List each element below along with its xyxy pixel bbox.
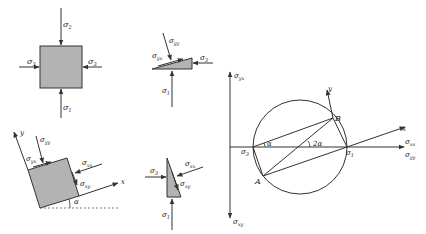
mohr-circle-diagram: σyx σxy σxx σyy σ3 σ1 A B x y α 2α (230, 72, 416, 228)
two-alpha-arc (308, 141, 310, 147)
sigma-xx-label: σxx (185, 160, 196, 169)
panel-c-rotated-element: y x σyy σyx σxx σxy α (14, 129, 125, 208)
sigma1-label: σ1 (162, 211, 170, 220)
sigma-yx-label: σyx (152, 52, 163, 62)
sigma3-label: σ3 (150, 167, 158, 176)
sigma3-point-label: σ3 (241, 148, 249, 157)
sigma1-label: σ1 (162, 87, 170, 96)
sigma-xx-label: σxx (82, 159, 93, 168)
alpha-angle-label: α (267, 140, 272, 148)
alpha-angle-arc (69, 199, 70, 208)
sigma2-label: σ2 (63, 20, 72, 30)
y-axis-label: y (19, 129, 25, 137)
panel-a-principal-element: σ2 σ1 σ3 σ3 (19, 8, 102, 118)
line-a-to-sigma1 (263, 147, 347, 176)
sigma-yx-label: σyx (26, 155, 37, 165)
sigma3-right-label: σ3 (88, 57, 97, 67)
alpha-arc (264, 143, 265, 147)
rotated-x-axis (347, 127, 405, 147)
sigma3-label: σ3 (200, 54, 208, 63)
sigma1-label: σ1 (63, 103, 72, 113)
sigma3-left-label: σ3 (27, 57, 36, 67)
rotated-square (28, 158, 79, 208)
sigma-xy-axis-label: σxy (233, 218, 244, 228)
stress-diagram: σ2 σ1 σ3 σ3 σyy σyx σ3 σ1 (0, 0, 426, 234)
sigma-yy-axis-label: σyy (405, 151, 416, 161)
sigma-yy-label: σyy (40, 136, 51, 146)
y-axis-arrow (14, 132, 28, 170)
x-axis-label: x (121, 178, 125, 186)
panel-b-wedge-element: σyy σyx σ3 σ1 (152, 33, 213, 107)
sigma-yx-axis-label: σyx (234, 72, 245, 82)
sigma-xy-label: σxy (180, 180, 191, 190)
x-axis-label: x (402, 125, 406, 133)
line-sigma3-to-a (253, 147, 263, 176)
sigma-xy-label: σxy (80, 180, 91, 190)
panel-d-wedge-element: σ3 σxx σxy σ1 (145, 158, 203, 230)
sigma1-point-label: σ1 (346, 149, 354, 158)
point-b-label: B (334, 114, 341, 123)
alpha-label: α (74, 198, 79, 206)
sigma-xx-axis-label: σxx (405, 138, 416, 147)
point-a-label: A (254, 177, 261, 186)
stress-element-square (40, 46, 82, 88)
sigma-yy-label: σyy (169, 37, 180, 47)
y-axis-label: y (327, 85, 333, 93)
rotated-y-axis (327, 90, 333, 118)
two-alpha-angle-label: 2α (312, 140, 322, 148)
